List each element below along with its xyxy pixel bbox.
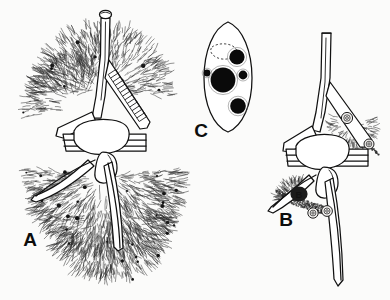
panel-a: A xyxy=(18,10,190,285)
panel-c: C xyxy=(194,22,252,141)
panel-a-central-body xyxy=(74,119,129,154)
panel-c-upper-right-body xyxy=(227,47,246,66)
inline-marker-b: B xyxy=(296,189,303,200)
panel-c-left-small-body xyxy=(202,68,212,78)
panel-a-apical-pore-cap xyxy=(100,10,112,18)
panel-b-central-body xyxy=(296,134,349,169)
panel-b-infection-patch: B xyxy=(290,187,307,202)
panel-b: B xyxy=(268,33,380,286)
panel-b-apical-horn xyxy=(312,33,331,132)
panel-a-left-antapical-horn xyxy=(31,160,94,202)
panel-b-parasite-cyst-hypotheca-right xyxy=(322,206,333,217)
panel-c-lower-body xyxy=(228,96,248,116)
panel-b-parasite-cyst-upper xyxy=(341,112,352,123)
panel-c-right-small-body xyxy=(237,69,249,81)
panel-label-b: B xyxy=(279,209,293,230)
panel-label-c: C xyxy=(194,120,208,141)
panel-b-parasite-cyst-hypotheca-left xyxy=(308,208,318,218)
panel-c-central-nucleus xyxy=(208,65,237,94)
panel-b-parasite-cyst-lower-right xyxy=(364,139,374,149)
panel-label-a: A xyxy=(23,229,37,250)
panel-a-lower-filament-mat xyxy=(19,167,190,285)
figure-canvas: A xyxy=(0,0,390,300)
scientific-figure: A xyxy=(0,0,390,300)
